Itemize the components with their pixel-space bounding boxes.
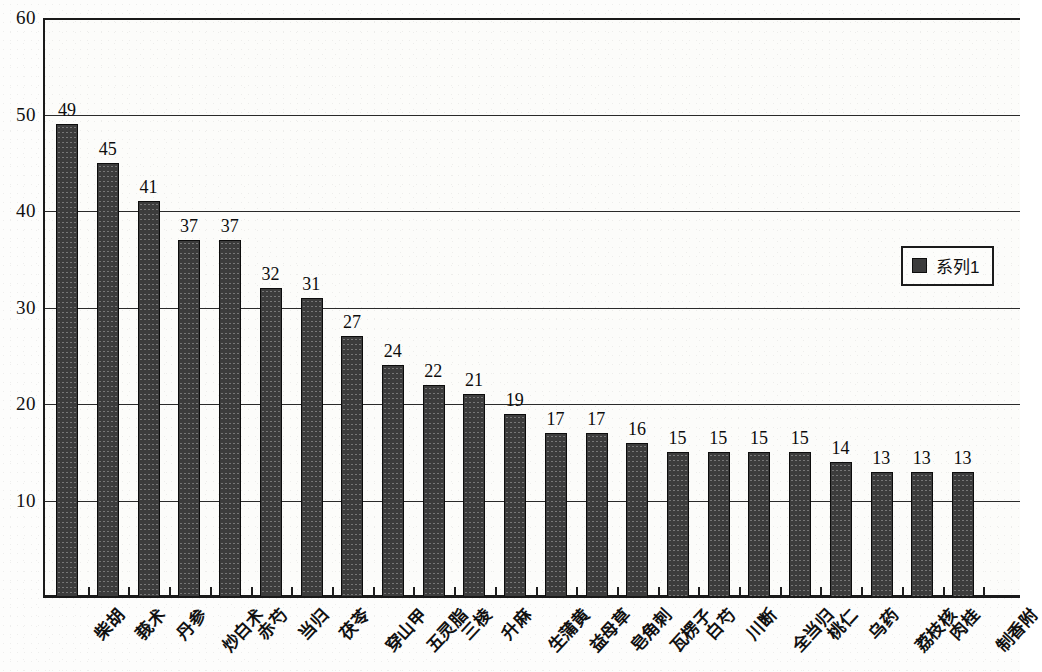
bar-group: 17	[586, 18, 608, 597]
x-axis-tick	[169, 587, 171, 597]
bar-group: 32	[260, 18, 282, 597]
bar-value-label: 15	[750, 428, 768, 449]
x-axis-tick	[291, 587, 293, 597]
bar	[952, 472, 974, 597]
bar-group: 14	[830, 18, 852, 597]
legend-swatch-series-1	[912, 258, 927, 273]
x-axis-tick	[210, 587, 212, 597]
x-axis-tick	[902, 587, 904, 597]
x-axis-category-label: 穿山甲	[379, 602, 432, 656]
bar	[545, 433, 567, 597]
bar-value-label: 49	[58, 100, 76, 121]
y-axis-tick-label: 40	[16, 200, 36, 222]
x-axis-tick	[983, 587, 985, 597]
bar	[586, 433, 608, 597]
bar-group: 16	[626, 18, 648, 597]
x-axis-tick	[617, 587, 619, 597]
bar	[382, 365, 404, 597]
bar-group: 15	[789, 18, 811, 597]
bar-value-label: 13	[954, 448, 972, 469]
bar-group: 31	[301, 18, 323, 597]
y-axis-tick-label: 60	[16, 7, 36, 29]
chart-legend: 系列1	[901, 246, 994, 286]
bar-group: 22	[423, 18, 445, 597]
bar-group: 13	[911, 18, 933, 597]
bar-value-label: 14	[831, 438, 849, 459]
bar	[97, 163, 119, 597]
bar-value-label: 17	[587, 409, 605, 430]
x-axis-category-label: 益母草	[582, 602, 635, 656]
y-axis-tick-label: 20	[16, 393, 36, 415]
x-axis-tick	[88, 587, 90, 597]
bar-group: 24	[382, 18, 404, 597]
x-axis-tick	[820, 587, 822, 597]
x-axis-tick	[251, 587, 253, 597]
bar	[219, 240, 241, 597]
x-axis-category-label: 乌药	[862, 602, 903, 644]
x-axis-category-label: 皂角刺	[623, 602, 676, 656]
bar-value-label: 15	[709, 428, 727, 449]
bar	[504, 414, 526, 597]
x-axis-category-label: 川断	[739, 602, 780, 644]
bar	[871, 472, 893, 597]
legend-label-series-1: 系列1	[936, 253, 979, 278]
x-axis-tick	[332, 587, 334, 597]
bar	[463, 394, 485, 597]
bar-value-label: 15	[791, 428, 809, 449]
bars-layer: 4945413737323127242221191717161515151514…	[43, 18, 1020, 597]
bar-group: 13	[952, 18, 974, 597]
x-axis-tick	[943, 587, 945, 597]
x-axis-category-label: 当归	[292, 602, 333, 644]
bar-value-label: 15	[669, 428, 687, 449]
x-axis-category-label: 莪术	[129, 602, 170, 644]
x-axis-labels: 柴胡莪术丹参炒白术赤芍当归茯苓穿山甲五灵脂三棱升麻生蒲黄益母草皂角刺瓦楞子白芍川…	[43, 600, 1020, 672]
bar	[56, 124, 78, 597]
x-axis-tick	[658, 587, 660, 597]
bar-value-label: 37	[221, 216, 239, 237]
bar-value-label: 37	[180, 216, 198, 237]
bar-group: 13	[871, 18, 893, 597]
bar-value-label: 22	[424, 361, 442, 382]
bar-group: 41	[138, 18, 160, 597]
bar-group: 21	[463, 18, 485, 597]
bar-value-label: 45	[99, 139, 117, 160]
x-axis-tick	[780, 587, 782, 597]
x-axis-tick	[536, 587, 538, 597]
bar	[260, 288, 282, 597]
bar-value-label: 16	[628, 419, 646, 440]
bar-group: 27	[341, 18, 363, 597]
bar-value-label: 24	[384, 341, 402, 362]
bar-value-label: 17	[546, 409, 564, 430]
x-axis-tick	[739, 587, 741, 597]
bar-group: 15	[708, 18, 730, 597]
x-axis-tick	[373, 587, 375, 597]
bar-group: 37	[219, 18, 241, 597]
bar	[708, 452, 730, 597]
bar-value-label: 13	[872, 448, 890, 469]
bar-value-label: 13	[913, 448, 931, 469]
x-axis-tick	[413, 587, 415, 597]
x-axis-tick	[576, 587, 578, 597]
y-axis: 102030405060	[0, 0, 36, 672]
bar-group: 17	[545, 18, 567, 597]
bar	[667, 452, 689, 597]
bar-value-label: 41	[139, 177, 157, 198]
x-axis-tick	[698, 587, 700, 597]
x-axis-category-label: 升麻	[495, 602, 536, 644]
bar-group: 15	[667, 18, 689, 597]
bar-group: 37	[178, 18, 200, 597]
y-axis-tick-label: 30	[16, 297, 36, 319]
bar	[301, 298, 323, 597]
y-axis-tick-label: 50	[16, 104, 36, 126]
bar	[341, 336, 363, 597]
bar-value-label: 27	[343, 312, 361, 333]
x-axis-category-label: 茯苓	[332, 602, 373, 644]
bar-value-label: 19	[506, 390, 524, 411]
x-axis-tick	[454, 587, 456, 597]
bar	[748, 452, 770, 597]
bar-group: 15	[748, 18, 770, 597]
bar	[911, 472, 933, 597]
x-axis-tick	[861, 587, 863, 597]
bar	[626, 443, 648, 597]
bar	[830, 462, 852, 597]
